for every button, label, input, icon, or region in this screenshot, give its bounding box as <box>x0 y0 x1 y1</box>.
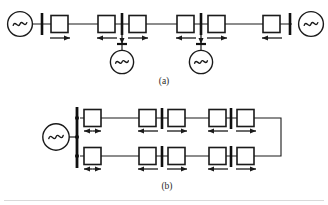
power-system-diagram: (a) <box>0 0 328 205</box>
gen-a-mid2 <box>189 50 212 73</box>
bus-b-main <box>75 107 79 168</box>
figure-container: (a) <box>0 0 328 205</box>
caption-a: (a) <box>159 76 170 87</box>
gen-a-left <box>8 12 33 37</box>
gen-a-right <box>299 12 324 37</box>
caption-b: (b) <box>161 181 172 192</box>
gen-a-mid1 <box>110 50 133 73</box>
